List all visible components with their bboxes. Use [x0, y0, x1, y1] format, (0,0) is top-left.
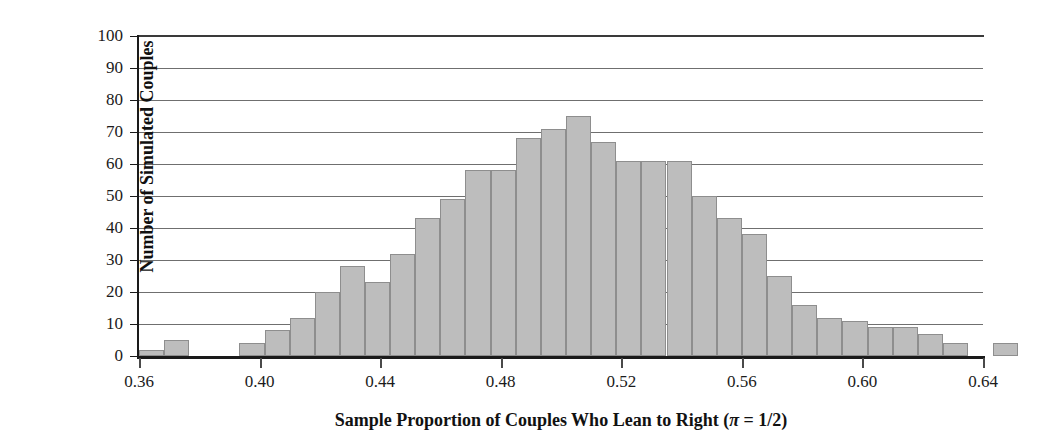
histogram-bar [692, 196, 717, 356]
histogram-bar [415, 218, 440, 356]
histogram-bar [792, 305, 817, 356]
gridline [139, 100, 983, 101]
histogram-bar [641, 161, 666, 356]
histogram-bar [667, 161, 692, 356]
y-axis-title: Number of Simulated Couples [137, 27, 158, 287]
y-tick-label: 40 [83, 218, 123, 238]
histogram-bar [943, 343, 968, 356]
histogram-bar [465, 170, 490, 356]
histogram-bar [164, 340, 189, 356]
y-tick-label: 80 [83, 90, 123, 110]
histogram-bar [365, 282, 390, 356]
x-tick-label: 0.60 [848, 372, 878, 392]
histogram-bar [767, 276, 792, 356]
y-tick-label: 70 [83, 122, 123, 142]
histogram-bar [742, 234, 767, 356]
histogram-bar [842, 321, 867, 356]
histogram-bar [616, 161, 641, 356]
x-tick-mark [501, 358, 503, 368]
histogram-bar [893, 327, 918, 356]
histogram-bar [340, 266, 365, 356]
y-tick-label: 0 [83, 346, 123, 366]
histogram-bar [239, 343, 264, 356]
y-tick-label: 90 [83, 58, 123, 78]
histogram-bar [440, 199, 465, 356]
y-tick-mark [130, 356, 139, 357]
x-tick-mark [983, 358, 985, 368]
y-tick-label: 30 [83, 250, 123, 270]
y-tick-label: 50 [83, 186, 123, 206]
x-tick-label: 0.56 [727, 372, 757, 392]
x-tick-label: 0.52 [606, 372, 636, 392]
histogram-bar [566, 116, 591, 356]
histogram-bar [993, 343, 1018, 356]
histogram-bar [591, 142, 616, 356]
x-tick-mark [862, 358, 864, 368]
x-tick-label: 0.44 [365, 372, 395, 392]
x-tick-label: 0.64 [968, 372, 998, 392]
histogram-bar [139, 350, 164, 356]
x-tick-mark [260, 358, 262, 368]
histogram-bar [541, 129, 566, 356]
gridline [139, 68, 983, 69]
x-tick-mark [139, 358, 141, 368]
histogram-figure: 0102030405060708090100 0.360.400.440.480… [0, 0, 1058, 444]
x-tick-mark [621, 358, 623, 368]
histogram-bar [817, 318, 842, 356]
y-tick-mark [130, 292, 139, 293]
histogram-bar [315, 292, 340, 356]
x-tick-label: 0.40 [245, 372, 275, 392]
histogram-bar [516, 138, 541, 356]
histogram-bar [491, 170, 516, 356]
y-tick-mark [130, 324, 139, 325]
histogram-bar [918, 334, 943, 356]
x-tick-mark [380, 358, 382, 368]
plot-top-border [138, 35, 984, 37]
histogram-bar [390, 254, 415, 356]
plot-area: 0102030405060708090100 0.360.400.440.480… [139, 36, 983, 356]
histogram-bar [265, 330, 290, 356]
histogram-bar [290, 318, 315, 356]
y-tick-label: 100 [83, 26, 123, 46]
x-tick-label: 0.36 [124, 372, 154, 392]
y-tick-label: 20 [83, 282, 123, 302]
histogram-bar [868, 327, 893, 356]
x-axis-line [137, 356, 985, 359]
histogram-bar [717, 218, 742, 356]
x-tick-label: 0.48 [486, 372, 516, 392]
x-axis-title: Sample Proportion of Couples Who Lean to… [139, 410, 983, 431]
y-tick-label: 60 [83, 154, 123, 174]
x-tick-mark [742, 358, 744, 368]
y-tick-label: 10 [83, 314, 123, 334]
